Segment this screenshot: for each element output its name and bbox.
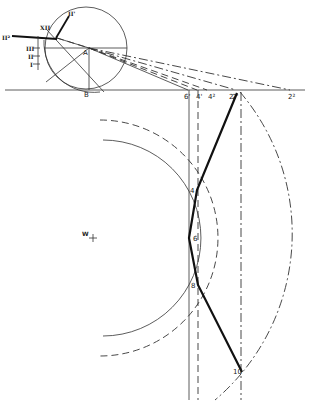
label-iii: III [26,45,35,52]
baseline-labels: 6' 4' 4² 2' 2² [184,93,295,101]
label-b: B [84,91,89,99]
label-ii: II [28,53,34,60]
label-xii: XII [40,24,50,31]
ray-to-4a [89,48,197,90]
construction-diagram: XII II' II² III II I A B 6' 4' 4² 2' 2² … [0,0,310,413]
projection-rays [57,38,290,90]
label-i: I [30,61,33,68]
label-point-2: 2 [229,93,233,101]
label-ii-prime: II' [68,10,76,17]
label-2-sq: 2² [288,93,295,101]
label-w: W [82,230,89,237]
label-point-8: 8 [191,282,195,290]
zigzag-path [189,93,242,372]
dashdot-arc [215,92,292,400]
ray-to-2a [89,48,236,90]
ray-ii-double [12,36,57,39]
small-circle-group: XII II' II² III II I A B [2,7,127,99]
label-4-sq: 4² [208,93,215,101]
ray-ii-prime [56,16,69,38]
label-point-6: 6 [193,235,198,243]
label-a: A [83,49,88,57]
label-point-4: 4 [190,187,195,195]
center-w: W [82,230,97,242]
label-ii-double: II² [2,34,11,41]
solid-arc [103,140,201,336]
dashed-arc [100,120,218,356]
ray-to-2b [89,48,290,90]
label-6-prime: 6' [184,93,190,101]
label-point-10: 10 [233,368,242,376]
ray-to-6 [89,48,188,90]
label-4-prime: 4' [196,93,202,101]
